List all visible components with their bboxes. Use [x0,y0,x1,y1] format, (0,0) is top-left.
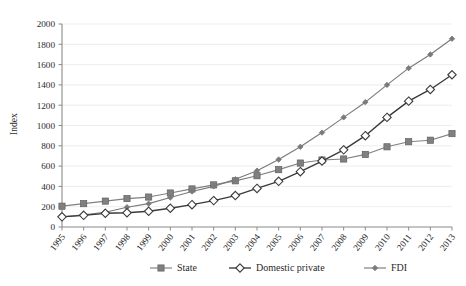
x-tick-label: 2006 [286,232,305,253]
legend-item-state[interactable]: State [150,262,198,273]
data-point-diamond-open [339,146,347,154]
x-tick-label: 2010 [373,232,392,253]
x-tick-label: 1995 [48,232,67,253]
x-tick-label: 2005 [265,232,284,253]
legend-label: FDI [391,262,407,273]
x-tick-label: 1999 [135,232,154,253]
y-tick-label: 0 [50,222,55,232]
data-point-square [449,131,455,137]
y-tick-label: 1200 [37,101,56,111]
data-point-diamond-open [426,85,434,93]
legend-item-fdi[interactable]: FDI [364,262,407,273]
y-axis-label: Index [8,113,19,135]
data-point-square [406,139,412,145]
x-tick-label: 2013 [438,232,457,253]
data-point-diamond-open [166,204,174,212]
x-tick-label: 2002 [200,232,219,253]
data-point-diamond-open [101,209,109,217]
x-tick-label: 1997 [91,232,110,253]
y-tick-label: 1000 [37,121,56,131]
data-point-diamond-open [236,264,244,272]
data-point-diamond-open [253,184,261,192]
data-point-diamond-open [79,211,87,219]
data-point-diamond-open [58,213,66,221]
data-point-diamond-open [448,71,456,79]
gridlines [62,24,452,207]
data-point-diamond-filled [146,201,151,206]
data-point-diamond-open [296,167,304,175]
x-tick-label: 2000 [156,232,175,253]
x-tick-label: 2003 [221,232,240,253]
data-point-square [81,201,87,207]
y-tick-label: 1600 [37,60,56,70]
legend-label: State [177,262,198,273]
data-point-diamond-open [231,191,239,199]
y-tick-label: 1400 [37,80,56,90]
y-tick-label: 2000 [37,19,56,29]
line-chart: 0200400600800100012001400160018002000 19… [0,0,466,286]
data-point-square [124,195,130,201]
x-tick-label: 2011 [395,232,414,253]
legend-item-domestic-private[interactable]: Domestic private [229,262,325,273]
chart-legend: StateDomestic privateFDI [150,262,407,273]
y-tick-label: 1800 [37,40,56,50]
data-point-diamond-filled [276,157,281,162]
x-tick-label: 2008 [330,232,349,253]
data-point-square [427,137,433,143]
data-point-square [146,194,152,200]
data-point-square [59,203,65,209]
series-layer [58,36,456,221]
data-point-diamond-open [123,209,131,217]
data-point-square [276,167,282,173]
data-point-square [297,160,303,166]
data-point-diamond-open [144,207,152,215]
x-tick-label: 2007 [308,232,327,253]
x-tick-label: 2001 [178,232,197,253]
data-point-square [158,265,164,271]
x-tick-labels: 1995199619971998199920002001200220032004… [48,232,457,253]
data-point-square [384,144,390,150]
data-point-diamond-open [274,177,282,185]
data-point-square [102,198,108,204]
data-point-square [341,156,347,162]
y-tick-label: 400 [41,182,55,192]
x-tick-label: 2012 [416,232,435,253]
data-point-square [362,151,368,157]
y-tick-label: 800 [41,141,55,151]
x-tick-label: 2004 [243,232,262,253]
x-tick-label: 2009 [351,232,370,253]
data-point-diamond-open [209,196,217,204]
y-tick-labels: 0200400600800100012001400160018002000 [37,19,56,232]
chart-figure: 0200400600800100012001400160018002000 19… [0,0,466,286]
data-point-diamond-open [188,200,196,208]
y-tick-label: 600 [41,161,55,171]
x-tick-label: 1996 [70,232,89,253]
x-tick-label: 1998 [113,232,132,253]
y-tick-label: 200 [41,202,55,212]
legend-label: Domestic private [256,262,325,273]
data-point-diamond-filled [372,265,377,270]
